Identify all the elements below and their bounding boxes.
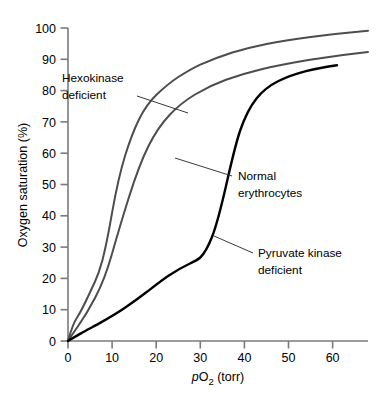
x-axis-title-p: p <box>191 370 199 384</box>
x-tick-label-20: 20 <box>149 351 163 365</box>
y-tick-label-40: 40 <box>42 209 56 223</box>
y-tick-label-50: 50 <box>42 178 56 192</box>
x-tick-label-10: 10 <box>105 351 119 365</box>
x-axis-title-units: (torr) <box>214 370 245 384</box>
x-tick-label-0: 0 <box>65 351 72 365</box>
oxygen-dissociation-chart: 100 90 80 70 60 50 40 30 20 10 0 0 10 20… <box>0 0 377 396</box>
annotation-pyruvate-line1: Pyruvate kinase <box>258 246 342 260</box>
oxygen-saturation-figure: 100 90 80 70 60 50 40 30 20 10 0 0 10 20… <box>0 0 377 396</box>
y-tick-label-10: 10 <box>42 303 56 317</box>
y-tick-label-0: 0 <box>49 335 56 349</box>
x-tick-label-60: 60 <box>326 351 340 365</box>
y-tick-label-60: 60 <box>42 147 56 161</box>
x-axis-title-o: O <box>199 370 209 384</box>
chart-background <box>0 0 377 396</box>
x-tick-label-50: 50 <box>282 351 296 365</box>
annotation-hexokinase-line2: deficient <box>62 88 107 102</box>
y-tick-label-80: 80 <box>42 84 56 98</box>
y-axis-title: Oxygen saturation (%) <box>16 123 30 247</box>
x-tick-label-40: 40 <box>237 351 251 365</box>
y-tick-label-90: 90 <box>42 53 56 67</box>
x-tick-label-30: 30 <box>193 351 207 365</box>
annotation-normal-line1: Normal <box>238 169 276 183</box>
annotation-normal-line2: erythrocytes <box>238 186 302 200</box>
y-tick-label-30: 30 <box>42 241 56 255</box>
annotation-pyruvate-line2: deficient <box>258 263 303 277</box>
y-tick-label-70: 70 <box>42 116 56 130</box>
y-tick-label-20: 20 <box>42 272 56 286</box>
annotation-hexokinase-line1: Hexokinase <box>62 71 124 85</box>
y-tick-label-100: 100 <box>35 22 56 36</box>
